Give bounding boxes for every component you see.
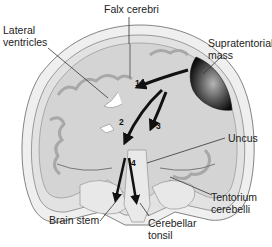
label-cerebellar-tonsil: Cerebellar tonsil	[148, 218, 196, 241]
arrow-number-4: 4	[131, 158, 136, 168]
label-uncus: Uncus	[228, 133, 258, 145]
label-tentorium-cerebelli-line1: Tentorium	[211, 192, 257, 204]
label-lateral-ventricles-line2: ventricles	[3, 37, 47, 49]
arrow-number-1: 1	[135, 78, 140, 88]
label-supratentorial-mass-line2: mass	[208, 50, 272, 62]
label-lateral-ventricles-line1: Lateral	[3, 25, 47, 37]
label-cerebellar-tonsil-line1: Cerebellar	[148, 218, 196, 230]
label-lateral-ventricles: Lateral ventricles	[3, 25, 47, 48]
label-falx-cerebri: Falx cerebri	[104, 4, 159, 16]
arrow-number-2: 2	[119, 117, 124, 127]
herniation-diagram: 1 2 3 4 Falx cerebri Lateral ventricles …	[0, 0, 272, 247]
label-supratentorial-mass: Supratentorial mass	[208, 38, 272, 61]
label-cerebellar-tonsil-line2: tonsil	[148, 230, 196, 242]
arrow-number-3: 3	[156, 121, 161, 131]
label-tentorium-cerebelli: Tentorium cerebelli	[211, 192, 257, 215]
label-tentorium-cerebelli-line2: cerebelli	[211, 204, 257, 216]
label-supratentorial-mass-line1: Supratentorial	[208, 38, 272, 50]
label-brain-stem: Brain stem	[49, 215, 99, 227]
